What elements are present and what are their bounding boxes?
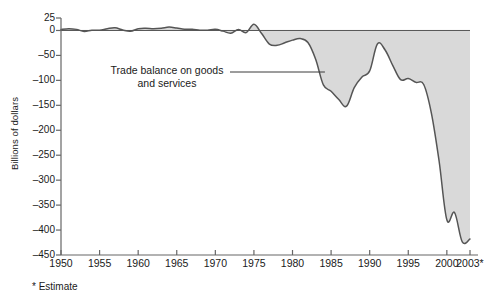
y-tick-label: –150 bbox=[0, 100, 55, 110]
x-tick-label: 2003* bbox=[440, 258, 488, 269]
y-tick-label: –100 bbox=[0, 75, 55, 85]
series-area-fill bbox=[61, 24, 470, 243]
footnote: * Estimate bbox=[32, 281, 78, 292]
y-tick-label: –350 bbox=[0, 200, 55, 210]
y-tick-label: –250 bbox=[0, 150, 55, 160]
annotation-line-1: Trade balance on goods bbox=[104, 64, 230, 77]
y-tick-label: –50 bbox=[0, 50, 55, 60]
y-tick-label: –400 bbox=[0, 225, 55, 235]
series-annotation: Trade balance on goods and services bbox=[104, 64, 230, 90]
y-tick-label: –300 bbox=[0, 175, 55, 185]
chart-plot-area bbox=[0, 0, 488, 301]
y-tick-label: 0 bbox=[0, 25, 55, 35]
annotation-line-2: and services bbox=[104, 77, 230, 90]
y-tick-label: –200 bbox=[0, 125, 55, 135]
chart-figure: Billions of dollars 250–50–100–150–200–2… bbox=[0, 0, 488, 301]
y-tick-label: 25 bbox=[0, 13, 55, 23]
